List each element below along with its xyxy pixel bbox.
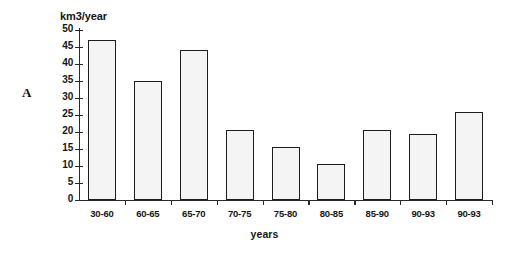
y-axis-tick-mark [75,98,83,99]
bar [363,130,391,200]
y-axis-tick-mark [75,200,83,201]
y-axis-tick-label: 25 [62,108,73,120]
bar [272,147,300,200]
y-axis-tick-label: 5 [68,176,73,188]
y-axis-tick-mark [75,132,83,133]
bar [317,164,345,200]
x-axis-category-label: 80-85 [308,208,354,219]
x-axis-tick-mark [171,200,172,205]
x-axis-line [79,200,492,201]
bar [455,112,483,200]
y-axis-tick-label: 45 [62,40,73,52]
y-axis-tick-mark [75,149,83,150]
x-axis-tick-mark [217,200,218,205]
y-axis-tick-label: 35 [62,74,73,86]
x-axis-tick-mark [263,200,264,205]
x-axis-category-label: 30-60 [79,208,125,219]
x-axis-tick-mark [492,200,493,205]
y-axis-tick-label: 10 [62,159,73,171]
y-axis-tick-label: 15 [62,142,73,154]
x-axis-category-label: 90-93 [446,208,492,219]
y-axis-tick-label: 20 [62,125,73,137]
bar-chart-figure: A km3/year 05101520253035404550 30-6060-… [0,0,529,259]
plot-area: 05101520253035404550 30-6060-6565-7070-7… [79,30,492,200]
bar [88,40,116,200]
y-axis-tick-label: 30 [62,91,73,103]
y-axis-tick-mark [75,115,83,116]
y-axis-title: km3/year [60,10,107,22]
x-axis-category-label: 75-80 [263,208,309,219]
x-axis-tick-mark [125,200,126,205]
x-axis-category-label: 85-90 [354,208,400,219]
bar [134,81,162,200]
x-axis-tick-mark [446,200,447,205]
y-axis-tick-mark [75,30,83,31]
panel-label-a: A [22,85,31,101]
bar [409,134,437,200]
x-axis-tick-mark [308,200,309,205]
y-axis-tick-label: 0 [68,193,73,205]
x-axis-tick-mark [400,200,401,205]
y-axis-line [79,28,80,200]
y-axis-tick-mark [75,166,83,167]
y-axis-tick-label: 40 [62,57,73,69]
x-axis-category-label: 60-65 [125,208,171,219]
y-axis-tick-mark [75,47,83,48]
x-axis-category-label: 65-70 [171,208,217,219]
y-axis-tick-label: 50 [62,23,73,35]
bar [226,130,254,200]
y-axis-tick-mark [75,64,83,65]
x-axis-tick-mark [354,200,355,205]
x-axis-category-label: 90-93 [400,208,446,219]
y-axis-tick-mark [75,183,83,184]
bar [180,50,208,200]
y-axis-tick-mark [75,81,83,82]
x-axis-category-label: 70-75 [217,208,263,219]
x-axis-title: years [0,228,529,240]
